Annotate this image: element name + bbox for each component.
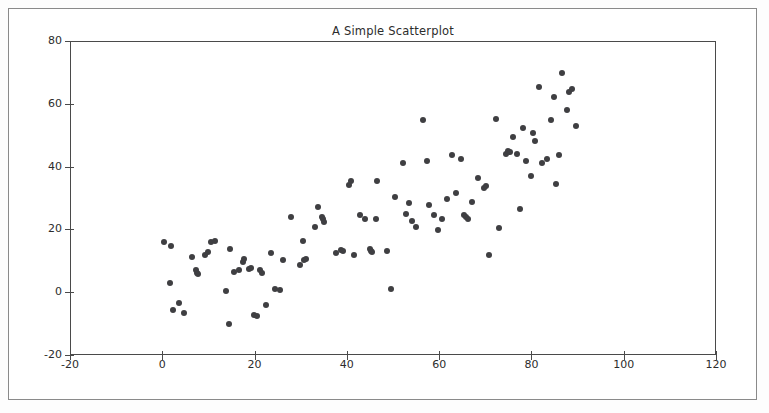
scatter-point [458,156,464,162]
x-axis-tick-label: 100 [604,358,644,371]
scatter-point [223,288,229,294]
scatter-point [483,183,489,189]
scatter-point [388,286,394,292]
scatter-point [254,313,260,319]
scatter-point [227,246,233,252]
scatter-point [493,116,499,122]
scatter-point [403,211,409,217]
chart-title: A Simple Scatterplot [70,24,716,38]
scatter-point [569,86,575,92]
scatter-point [496,225,502,231]
scatter-point [348,178,354,184]
scatter-point [556,152,562,158]
scatter-point [263,302,269,308]
scatter-point [520,125,526,131]
scatter-point [400,160,406,166]
scatter-point [312,224,318,230]
scatter-point [340,248,346,254]
scatter-point [373,216,379,222]
scatter-point [469,199,475,205]
scatter-point [424,158,430,164]
x-tick-mark-inner [716,351,717,355]
x-tick-mark-inner [255,351,256,355]
scatter-point [548,117,554,123]
scatter-point [559,70,565,76]
scatter-point [167,280,173,286]
x-tick-mark-inner [162,351,163,355]
scatter-point [248,265,254,271]
y-axis-tick-label: 60 [18,97,62,110]
scatter-point [536,84,542,90]
scatter-point [161,239,167,245]
scatter-point [362,216,368,222]
scatter-point [551,94,557,100]
scatter-point [212,238,218,244]
y-tick-mark-inner [70,229,74,230]
scatter-point [277,287,283,293]
scatter-point [426,202,432,208]
x-axis-tick-label: 0 [142,358,182,371]
scatter-point [553,181,559,187]
scatter-point [181,310,187,316]
x-axis-tick-label: 20 [235,358,275,371]
y-axis-tick-label: 80 [18,34,62,47]
scatter-point [392,194,398,200]
scatter-point [170,307,176,313]
scatter-point [195,271,201,277]
scatter-point [528,173,534,179]
x-axis-tick-label: 60 [419,358,459,371]
scatter-point [205,249,211,255]
scatterplot-figure: A Simple Scatterplot -20020406080100120-… [0,0,769,413]
scatter-point [351,252,357,258]
scatter-point [420,117,426,123]
scatter-point [523,158,529,164]
scatter-point [168,243,174,249]
scatter-point [486,252,492,258]
x-tick-mark-inner [531,351,532,355]
scatter-point [300,238,306,244]
x-axis-tick-label: 80 [511,358,551,371]
scatter-point [435,227,441,233]
x-axis-tick-label: 120 [696,358,736,371]
page-root: A Simple Scatterplot -20020406080100120-… [0,0,769,413]
y-tick-mark-inner [70,104,74,105]
plot-axes-frame [70,41,716,355]
scatter-point [573,123,579,129]
scatter-point [475,175,481,181]
scatter-point [280,257,286,263]
x-tick-mark-inner [347,351,348,355]
y-axis-tick-label: 20 [18,222,62,235]
scatter-point [413,224,419,230]
scatter-point [431,212,437,218]
y-axis-tick-label: 40 [18,160,62,173]
scatter-point [507,149,513,155]
scatter-point [226,321,232,327]
y-axis-tick-label: 0 [18,285,62,298]
scatter-point [189,254,195,260]
scatter-point [449,152,455,158]
scatter-point [510,134,516,140]
scatter-point [369,249,375,255]
scatter-point [288,214,294,220]
scatter-point [439,216,445,222]
y-tick-mark-inner [70,167,74,168]
y-tick-mark-inner [70,292,74,293]
plot-data-area [71,42,715,354]
x-tick-mark-inner [439,351,440,355]
x-tick-mark-inner [624,351,625,355]
scatter-point [176,300,182,306]
scatter-point [530,130,536,136]
scatter-point [236,267,242,273]
scatter-point [444,196,450,202]
y-axis-tick-label: -20 [18,348,62,361]
scatter-point [259,270,265,276]
y-tick-mark-inner [70,355,74,356]
scatter-point [321,219,327,225]
scatter-point [303,256,309,262]
scatter-point [517,206,523,212]
y-tick-mark-inner [70,41,74,42]
x-axis-tick-label: 40 [327,358,367,371]
scatter-point [268,250,274,256]
scatter-point [544,156,550,162]
scatter-point [406,200,412,206]
